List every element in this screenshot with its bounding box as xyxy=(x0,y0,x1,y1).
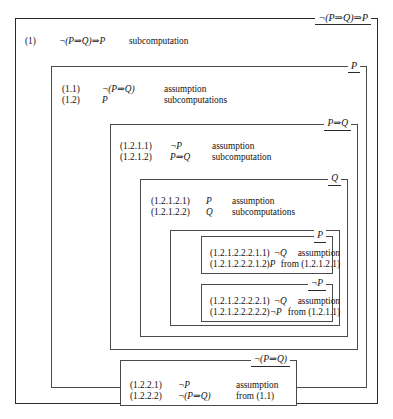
box-label-level-4-q: Q xyxy=(328,172,341,186)
step-row: (1.2.1.2.2.2.1.2) P from (1.2.1.2.1) xyxy=(210,259,340,270)
step-justification: assumption xyxy=(298,248,340,259)
step-number: (1.2.1.1) xyxy=(120,141,170,152)
proof-diagram: ¬(P⇒Q)⇒P (1) ¬(P⇒Q)⇒P subcomputation P (… xyxy=(0,0,393,419)
step-formula: Q xyxy=(206,207,232,218)
proof-box-level-1[interactable]: ¬(P⇒Q)⇒P (1) ¬(P⇒Q)⇒P subcomputation P (… xyxy=(15,18,378,404)
step-number: (1.2) xyxy=(62,95,102,106)
step-row: (1.2.1.2.2.2.2.2) ¬P from (1.2.1.1) xyxy=(210,307,340,318)
step-justification: assumption xyxy=(298,296,340,307)
step-formula: ¬(P⇒Q) xyxy=(102,84,164,95)
box-label-level-3-negation: ¬(P⇒Q) xyxy=(251,353,290,367)
proof-box-level-5-wrapper[interactable]: P (1.2.1.2.2.2.1.1) ¬Q assumption (1.2.1… xyxy=(170,230,340,326)
step-row: (1.2.2.2) ¬(P⇒Q) from (1.1) xyxy=(130,391,305,402)
step-number: (1) xyxy=(25,36,59,47)
step-justification: assumption xyxy=(236,380,278,391)
step-justification: assumption xyxy=(164,84,206,95)
step-number: (1.2.1.2.2.2.1.1) xyxy=(210,248,274,259)
step-justification: subcomputations xyxy=(164,95,227,106)
step-row: (1.2.1.1) ¬P assumption xyxy=(120,141,366,152)
step-formula: ¬P xyxy=(178,380,236,391)
step-list-level-6-not-p: (1.2.1.2.2.2.2.1) ¬Q assumption (1.2.1.2… xyxy=(210,296,340,319)
box-label-level-6-not-p: ¬P xyxy=(308,277,326,291)
box-label-level-6-p: P xyxy=(314,229,326,243)
step-number: (1.2.1.2.2.2.1.2) xyxy=(210,259,270,270)
step-row: (1.2.1.2) P⇒Q subcomputation xyxy=(120,152,366,163)
box-label-level-3-implication: P⇒Q xyxy=(324,117,351,131)
proof-box-level-3-implication[interactable]: P⇒Q (1.2.1.1) ¬P assumption (1.2.1.2) P⇒… xyxy=(110,124,358,350)
step-list-level-6-p: (1.2.1.2.2.2.1.1) ¬Q assumption (1.2.1.2… xyxy=(210,248,340,271)
step-list-level-4: (1.2.1.2.1) P assumption (1.2.1.2.2) Q s… xyxy=(151,196,357,219)
box-label-level-2: P xyxy=(348,59,360,73)
step-formula: ¬Q xyxy=(274,296,298,307)
step-number: (1.2.1.2.2.2.2.1) xyxy=(210,296,274,307)
step-formula: ¬(P⇒Q) xyxy=(178,391,236,402)
step-formula: P xyxy=(206,196,232,207)
step-number: (1.2.2.1) xyxy=(130,380,178,391)
step-row: (1.2.1.2.2.2.1.1) ¬Q assumption xyxy=(210,248,340,259)
step-row: (1.2.2.1) ¬P assumption xyxy=(130,380,305,391)
step-list-level-2: (1.1) ¬(P⇒Q) assumption (1.2) P subcompu… xyxy=(62,84,376,107)
proof-box-level-2[interactable]: P (1.1) ¬(P⇒Q) assumption (1.2) P subcom… xyxy=(51,66,367,388)
step-justification: subcomputations xyxy=(232,207,295,218)
step-justification: from (1.2.1.2.1) xyxy=(281,259,340,270)
step-justification: subcomputation xyxy=(129,36,188,47)
step-number: (1.1) xyxy=(62,84,102,95)
step-formula: ¬(P⇒Q)⇒P xyxy=(59,36,129,47)
step-justification: subcomputation xyxy=(212,152,271,163)
step-row: (1.2.1.2.2.2.2.1) ¬Q assumption xyxy=(210,296,340,307)
step-number: (1.2.2.2) xyxy=(130,391,178,402)
step-formula: P xyxy=(102,95,164,106)
step-number: (1.2.1.2) xyxy=(120,152,170,163)
step-number: (1.2.1.2.2.2.2.2) xyxy=(210,307,270,318)
step-justification: assumption xyxy=(232,196,274,207)
proof-box-level-6-p[interactable]: P (1.2.1.2.2.2.1.1) ¬Q assumption (1.2.1… xyxy=(201,236,333,274)
step-number: (1.2.1.2.2) xyxy=(151,207,206,218)
step-formula: ¬Q xyxy=(274,248,298,259)
step-row: (1.2) P subcomputations xyxy=(62,95,376,106)
step-formula: P xyxy=(270,259,281,270)
step-list-level-1: (1) ¬(P⇒Q)⇒P subcomputation xyxy=(25,36,386,47)
proof-box-level-4-q[interactable]: Q (1.2.1.2.1) P assumption (1.2.1.2.2) Q… xyxy=(140,179,348,337)
step-number: (1.2.1.2.1) xyxy=(151,196,206,207)
step-formula: P⇒Q xyxy=(170,152,212,163)
proof-box-level-6-not-p[interactable]: ¬P (1.2.1.2.2.2.2.1) ¬Q assumption (1.2.… xyxy=(201,284,333,322)
step-justification: from (1.2.1.1) xyxy=(288,307,340,318)
step-list-level-3: (1.2.1.1) ¬P assumption (1.2.1.2) P⇒Q su… xyxy=(120,141,366,164)
step-justification: assumption xyxy=(212,141,254,152)
box-label-level-1: ¬(P⇒Q)⇒P xyxy=(315,11,371,25)
step-formula: ¬P xyxy=(170,141,212,152)
proof-box-level-3-negation[interactable]: ¬(P⇒Q) (1.2.2.1) ¬P assumption (1.2.2.2)… xyxy=(120,360,297,406)
step-row: (1.1) ¬(P⇒Q) assumption xyxy=(62,84,376,95)
step-formula: ¬P xyxy=(270,307,288,318)
step-list-level-3-negation: (1.2.2.1) ¬P assumption (1.2.2.2) ¬(P⇒Q)… xyxy=(130,380,305,403)
step-row: (1.2.1.2.1) P assumption xyxy=(151,196,357,207)
step-justification: from (1.1) xyxy=(236,391,274,402)
step-row: (1.2.1.2.2) Q subcomputations xyxy=(151,207,357,218)
step-row: (1) ¬(P⇒Q)⇒P subcomputation xyxy=(25,36,386,47)
